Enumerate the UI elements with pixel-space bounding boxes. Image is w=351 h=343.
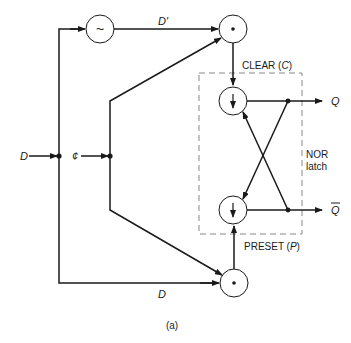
clock-input-label: ¢: [72, 150, 78, 162]
delay-symbol: ~: [96, 21, 104, 37]
d-prime-label: D′: [158, 15, 169, 27]
feedback-q-to-bottom-nor: [243, 101, 288, 199]
q-output-label: Q: [331, 95, 340, 107]
clock-bottom-wire: [110, 156, 222, 275]
nor-latch-label-2: latch: [306, 161, 327, 172]
and-bottom-dot-icon: [232, 281, 236, 285]
d-input-label: D: [20, 150, 28, 162]
clear-label: CLEAR (C): [242, 60, 292, 71]
feedback-qbar-to-top-nor: [243, 112, 288, 210]
q-bar-output-label: Q: [331, 204, 340, 216]
nor-latch-label: NOR: [306, 149, 328, 160]
clock-top-wire: [110, 38, 221, 156]
d-bottom-label: D: [158, 288, 166, 300]
figure-caption: (a): [166, 320, 178, 331]
circuit-diagram: ~ D′ ¢ D D CLEAR (C) PRESET (P) Q Q NOR: [0, 0, 351, 343]
and-top-dot-icon: [231, 27, 235, 31]
preset-label: PRESET (P): [244, 241, 300, 252]
